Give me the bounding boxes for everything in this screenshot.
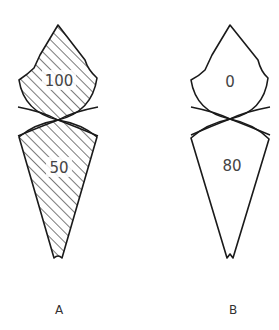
diagram-canvas: 100 50 A 0 80 B (0, 0, 279, 330)
panel-b-upper-shape (191, 25, 268, 119)
panel-b-cross-arc-left (191, 107, 270, 135)
panel-a-caption: A (55, 303, 64, 317)
panel-b: 0 80 B (191, 25, 270, 317)
panel-b-caption: B (229, 303, 237, 317)
panel-a-lower-value: 50 (49, 159, 68, 177)
panel-a-upper-value: 100 (45, 72, 74, 90)
panel-b-lower-shape (191, 119, 269, 258)
panel-b-lower-value: 80 (222, 157, 241, 175)
panel-a: 100 50 A (18, 25, 98, 317)
panel-a-lower-shape (19, 120, 97, 258)
panel-b-upper-value: 0 (225, 73, 235, 91)
